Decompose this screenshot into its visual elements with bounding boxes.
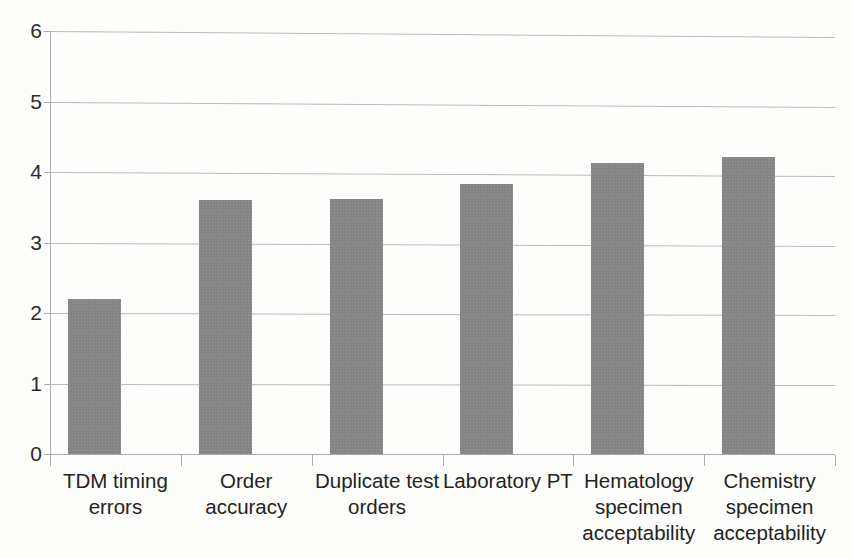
x-axis-tick-mark bbox=[704, 455, 705, 466]
gridline bbox=[50, 243, 835, 247]
bar bbox=[330, 199, 383, 454]
y-axis-tick-label: 5 bbox=[8, 91, 42, 112]
x-axis-tick-mark bbox=[573, 455, 574, 466]
bar bbox=[722, 157, 775, 455]
gridline bbox=[50, 384, 835, 386]
x-axis-tick-mark bbox=[181, 455, 182, 466]
bar-chart: 0123456 TDM timing errorsOrder accuracyD… bbox=[0, 0, 852, 558]
plot-area bbox=[50, 31, 835, 454]
x-axis-category-label: TDM timing errors bbox=[50, 468, 180, 520]
gridline bbox=[50, 31, 835, 38]
x-axis-category-label: Chemistry specimen acceptability bbox=[705, 468, 835, 546]
y-axis-tick-label: 3 bbox=[8, 232, 42, 253]
y-axis-tick-label: 2 bbox=[8, 302, 42, 323]
x-axis-tick-mark bbox=[50, 455, 51, 466]
x-axis-category-label: Hematology specimen acceptability bbox=[574, 468, 704, 546]
x-axis-tick-mark bbox=[443, 455, 444, 466]
gridline bbox=[50, 313, 835, 316]
x-axis-category-label: Laboratory PT bbox=[443, 468, 573, 494]
bar bbox=[460, 184, 513, 454]
bar bbox=[68, 299, 121, 454]
y-axis-tick-label: 6 bbox=[8, 20, 42, 41]
y-axis-tick-label: 4 bbox=[8, 161, 42, 182]
bar bbox=[591, 163, 644, 454]
x-axis-tick-mark bbox=[835, 455, 836, 466]
x-axis-category-label: Order accuracy bbox=[181, 468, 311, 520]
x-axis-tick-mark bbox=[312, 455, 313, 466]
x-axis-category-label: Duplicate test orders bbox=[312, 468, 442, 520]
gridline bbox=[50, 172, 835, 177]
x-axis-category-labels: TDM timing errorsOrder accuracyDuplicate… bbox=[50, 468, 840, 558]
y-axis-tick-labels: 0123456 bbox=[0, 0, 42, 558]
y-axis-tick-label: 1 bbox=[8, 373, 42, 394]
y-axis-tick-label: 0 bbox=[8, 443, 42, 464]
bar bbox=[199, 200, 252, 454]
gridline bbox=[50, 102, 835, 108]
